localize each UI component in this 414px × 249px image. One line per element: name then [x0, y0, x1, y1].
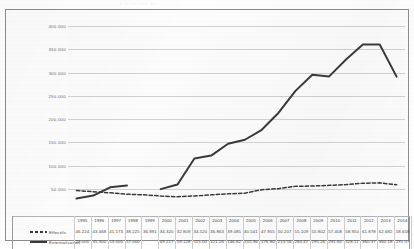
table-header-cell: 2011	[344, 216, 361, 226]
table-cell: 291.60	[327, 237, 344, 247]
legend-label-effectifs: Effectifs	[49, 230, 66, 235]
table-column-separator	[377, 216, 378, 249]
table-cell: 46.224	[74, 227, 91, 237]
table-column-separator	[360, 216, 361, 249]
table-cell: 39.085	[226, 227, 243, 237]
legend-item-externalisation: Externalisation	[30, 237, 74, 247]
table-column-separator	[293, 216, 294, 249]
table-column-separator	[74, 216, 75, 249]
table-column-separator	[209, 216, 210, 249]
table-cell: 115.00	[192, 237, 209, 247]
table-cell: 213.56	[276, 237, 293, 247]
table-header-cell: 2008	[293, 216, 310, 226]
table-cell: 360.18	[377, 237, 394, 247]
series-line-externalisation	[161, 44, 397, 189]
table-cell: 57.000	[125, 237, 142, 247]
table-header-cell: 1995	[74, 216, 91, 226]
table-cell: 55.109	[293, 227, 310, 237]
table-cell: 291.07	[394, 237, 411, 247]
solid-line-icon	[30, 241, 47, 243]
table-column-separator	[175, 216, 176, 249]
table-header-cell: 2012	[360, 216, 377, 226]
table-cell: 121.26	[209, 237, 226, 247]
table-cell: 155.36	[243, 237, 260, 247]
series-line-externalisation	[76, 186, 127, 199]
table-header-cell: 2005	[243, 216, 260, 226]
table-header-cell: 1996	[91, 216, 108, 226]
table-cell: 57.408	[327, 227, 344, 237]
table-column-separator	[192, 216, 193, 249]
table-header-row: 1995199619971998199920002001200220032004…	[12, 216, 410, 226]
legend-item-effectifs: Effectifs	[30, 227, 74, 237]
y-axis-tick-label: 250.000	[48, 93, 66, 98]
table-column-separator	[259, 216, 260, 249]
table-header-cell: 2001	[175, 216, 192, 226]
table-column-separator	[411, 216, 412, 249]
table-header-cell: 2009	[310, 216, 327, 226]
table-column-separator	[91, 216, 92, 249]
table-cell: 41.173	[108, 227, 125, 237]
table-column-separator	[243, 216, 244, 249]
table-header-cell: 2003	[209, 216, 226, 226]
table-cell: 260.47	[293, 237, 310, 247]
table-cell: 49.217	[158, 237, 175, 247]
y-axis-tick-label: 300.000	[48, 70, 66, 75]
table-cell: 58.950	[344, 227, 361, 237]
table-cell: 62.682	[377, 227, 394, 237]
table-header-cell: 2004	[226, 216, 243, 226]
table-cell: 360.37	[360, 237, 377, 247]
table-cell: 55.802	[310, 227, 327, 237]
table-cell: 295.26	[310, 237, 327, 247]
table-column-separator	[226, 216, 227, 249]
table-cell: 36.863	[209, 227, 226, 237]
table-cell: 50.207	[276, 227, 293, 237]
table-header-cell: 2010	[327, 216, 344, 226]
table-header-cell: 1997	[108, 216, 125, 226]
table-cell: 58.658	[394, 227, 411, 237]
y-axis-tick-label: 350.000	[48, 47, 66, 52]
table-cell: 53.000	[108, 237, 125, 247]
y-axis-tick-labels: 400.000350.000300.000250.000200.000150.0…	[14, 26, 66, 212]
table-row: Externalisation 29.00035.30053.00057.000…	[12, 237, 410, 247]
table-column-separator	[158, 216, 159, 249]
table-row: Effectifs 46.22443.46841.17338.22536.891…	[12, 227, 410, 237]
y-axis-tick-label: 400.000	[48, 24, 66, 29]
table-column-separator	[394, 216, 395, 249]
table-cell: 29.000	[74, 237, 91, 247]
dashed-line-icon	[30, 231, 47, 233]
y-axis-tick-label: 150.000	[48, 140, 66, 145]
table-header-cell: 1999	[141, 216, 158, 226]
table-column-separator	[108, 216, 109, 249]
y-axis-tick-label: 50.000	[51, 186, 66, 191]
table-cell: 36.891	[141, 227, 158, 237]
table-header-cell: 1998	[125, 216, 142, 226]
table-header-cell: 2007	[276, 216, 293, 226]
table-column-separator	[125, 216, 126, 249]
table-cell: 40.541	[243, 227, 260, 237]
y-axis-tick-label: 100.000	[48, 163, 66, 168]
chart-frame: 400.000350.000300.000250.000200.000150.0…	[5, 9, 409, 241]
table-header-cell: 2013	[377, 216, 394, 226]
table-cell: 32.809	[175, 227, 192, 237]
plot-area	[68, 26, 405, 212]
table-column-separator	[276, 216, 277, 249]
table-header-cell: 2006	[259, 216, 276, 226]
table-cell: 61.878	[360, 227, 377, 237]
table-cell: 43.468	[91, 227, 108, 237]
data-table: 1995199619971998199920002001200220032004…	[12, 216, 410, 249]
table-column-separator	[141, 216, 142, 249]
table-cell: 59.128	[175, 237, 192, 247]
table-cell: 176.80	[259, 237, 276, 247]
table-cell: 328.11	[344, 237, 361, 247]
table-column-separator	[310, 216, 311, 249]
table-cell: 38.225	[125, 227, 142, 237]
table-cell: 47.955	[259, 227, 276, 237]
y-axis-tick-label: 200.000	[48, 117, 66, 122]
table-header-cell: 2000	[158, 216, 175, 226]
table-cell: 35.300	[91, 237, 108, 247]
chart-lines	[68, 26, 405, 212]
table-header-cell: 2002	[192, 216, 209, 226]
table-cell: 34.320	[158, 227, 175, 237]
clipped-title-text: · · ·· ··· ··	[120, 0, 310, 7]
